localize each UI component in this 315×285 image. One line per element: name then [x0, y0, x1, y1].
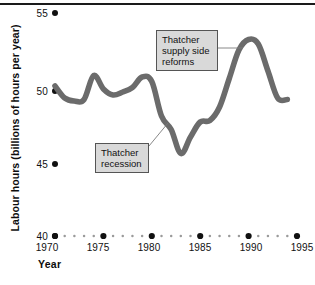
x-axis-major-dot: [294, 233, 300, 239]
x-axis-minor-dot: [131, 235, 134, 238]
x-axis-minor-dot: [92, 235, 95, 238]
x-axis-minor-dot: [160, 235, 163, 238]
chart-container: Labour hours (billions of hours per year…: [0, 0, 315, 285]
x-axis-minor-dot: [73, 235, 76, 238]
annotation-thatcher-supply-side-reforms: Thatcher supply side reforms: [156, 30, 218, 71]
x-axis-major-dot: [52, 233, 58, 239]
x-axis-minor-dot: [141, 235, 144, 238]
x-axis-minor-dot: [228, 235, 231, 238]
x-axis-minor-dot: [180, 235, 183, 238]
x-axis-minor-dot: [286, 235, 289, 238]
x-axis-dot-row: [52, 233, 300, 239]
x-tick-label-1995: 1995: [285, 242, 315, 253]
x-tick-label-1985: 1985: [183, 242, 217, 253]
annotation-reforms-line-1: Thatcher: [162, 34, 213, 45]
annotation-reforms-line-2: supply side: [162, 45, 213, 56]
x-axis-minor-dot: [63, 235, 66, 238]
x-axis-minor-dot: [122, 235, 125, 238]
x-axis-minor-dot: [209, 235, 212, 238]
x-axis-minor-dot: [83, 235, 86, 238]
leader-line-recession: [149, 123, 168, 146]
x-axis-minor-dot: [257, 235, 260, 238]
x-axis-minor-dot: [218, 235, 221, 238]
x-axis-minor-dot: [238, 235, 241, 238]
annotation-recession-line-1: Thatcher: [101, 147, 144, 158]
annotation-reforms-line-3: reforms: [162, 56, 213, 67]
x-axis-minor-dot: [112, 235, 115, 238]
x-tick-label-1975: 1975: [81, 242, 115, 253]
x-axis-title: Year: [38, 258, 61, 270]
x-axis-major-dot: [197, 233, 203, 239]
annotation-thatcher-recession: Thatcher recession: [95, 143, 149, 173]
annotation-recession-line-2: recession: [101, 158, 144, 169]
x-axis-major-dot: [246, 233, 252, 239]
x-axis-major-dot: [149, 233, 155, 239]
x-axis-major-dot: [100, 233, 106, 239]
x-tick-label-1990: 1990: [234, 242, 268, 253]
x-axis-minor-dot: [276, 235, 279, 238]
x-axis-minor-dot: [189, 235, 192, 238]
x-tick-label-1980: 1980: [132, 242, 166, 253]
x-tick-label-1970: 1970: [30, 242, 64, 253]
x-axis-minor-dot: [267, 235, 270, 238]
x-axis-minor-dot: [170, 235, 173, 238]
